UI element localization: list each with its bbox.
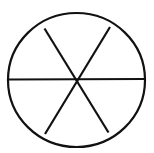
figure-canvas: Circle divided into six equal sectors A … (0, 0, 154, 153)
circle-sectors-diagram: Circle divided into six equal sectors A … (0, 0, 154, 153)
